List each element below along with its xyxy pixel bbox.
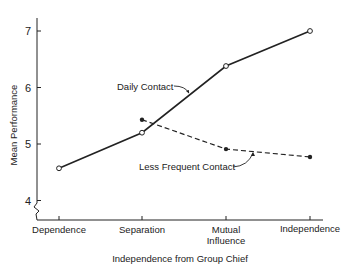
x-axis-title: Independence from Group Chief: [112, 253, 248, 264]
y-tick-label: 4: [25, 195, 31, 207]
y-tick-label: 6: [25, 82, 31, 94]
open-marker: [308, 29, 313, 34]
annotation-daily-contact: Daily Contact: [117, 81, 174, 92]
series-layer: [57, 29, 313, 171]
annotation-arrow-icon: [174, 86, 189, 93]
arrowhead-icon: [251, 152, 255, 156]
x-tick-label: Separation: [119, 224, 165, 235]
line-chart: 4567DependenceSeparationMutualInfluenceI…: [0, 0, 349, 276]
open-marker: [224, 64, 229, 69]
open-marker: [140, 130, 145, 135]
x-tick-label: Influence: [207, 235, 246, 246]
filled-marker: [308, 155, 312, 159]
y-tick-label: 5: [25, 138, 31, 150]
open-marker: [57, 166, 62, 171]
x-tick-label: Independence: [280, 223, 340, 234]
x-tick-label: Dependence: [32, 224, 86, 235]
y-axis-title: Mean Performance: [8, 85, 19, 166]
filled-marker: [140, 118, 144, 122]
series-line-0: [59, 31, 310, 168]
annotation-arrow-icon: [233, 153, 253, 167]
filled-marker: [224, 147, 228, 151]
axes: 4567DependenceSeparationMutualInfluenceI…: [25, 18, 340, 246]
annotation-less-frequent-contact: Less Frequent Contact: [139, 161, 235, 172]
arrowhead-icon: [186, 90, 189, 94]
series-line-1: [142, 120, 310, 157]
y-tick-label: 7: [25, 25, 31, 37]
axis-break-icon: [34, 203, 39, 220]
x-tick-label: Mutual: [212, 224, 241, 235]
